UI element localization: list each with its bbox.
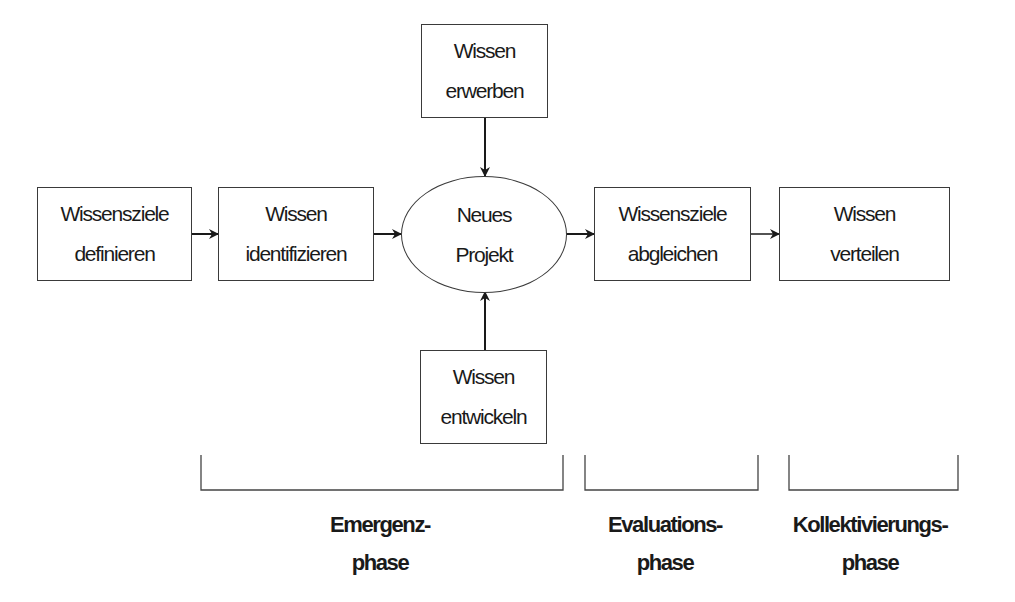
phase-label-line1: Evaluations- (580, 506, 750, 544)
phase-label-line1: Emergenz- (290, 506, 470, 544)
phase-label-line2: phase (760, 544, 980, 582)
node-label-line1: Neues (457, 195, 512, 235)
node-label-line2: Projekt (456, 235, 513, 275)
node-label-line2: verteilen (830, 234, 899, 274)
phase-label-line2: phase (580, 544, 750, 582)
phase-label-line1: Kollektivierungs- (760, 506, 980, 544)
phase-label-line2: phase (290, 544, 470, 582)
node-label-line1: Wissensziele (60, 194, 168, 234)
bracket-emergenz (201, 455, 563, 490)
node-label-line2: entwickeln (440, 397, 526, 437)
node-label-line2: erwerben (446, 71, 524, 111)
node-label-line1: Wissensziele (618, 194, 726, 234)
node-label-line1: Wissen (453, 357, 515, 397)
bracket-evaluation (585, 455, 758, 490)
node-label-line1: Wissen (265, 194, 327, 234)
node-wissen-identifizieren: Wissen identifizieren (218, 187, 374, 281)
node-label-line1: Wissen (834, 194, 896, 234)
bracket-kollektivierung (789, 455, 958, 490)
node-wissen-erwerben: Wissen erwerben (421, 24, 548, 118)
node-wissen-verteilen: Wissen verteilen (779, 187, 950, 281)
phase-label-evaluation: Evaluations- phase (580, 506, 750, 582)
node-label-line1: Wissen (454, 31, 516, 71)
node-label-line2: abgleichen (628, 234, 718, 274)
node-wissen-entwickeln: Wissen entwickeln (420, 350, 547, 444)
phase-label-emergenz: Emergenz- phase (290, 506, 470, 582)
node-label-line2: identifizieren (245, 234, 346, 274)
node-label-line2: definieren (74, 234, 154, 274)
node-wissensziele-abgleichen: Wissensziele abgleichen (594, 187, 751, 281)
phase-label-kollektivierung: Kollektivierungs- phase (760, 506, 980, 582)
node-wissensziele-definieren: Wissensziele definieren (37, 187, 192, 281)
node-neues-projekt: Neues Projekt (401, 176, 567, 293)
